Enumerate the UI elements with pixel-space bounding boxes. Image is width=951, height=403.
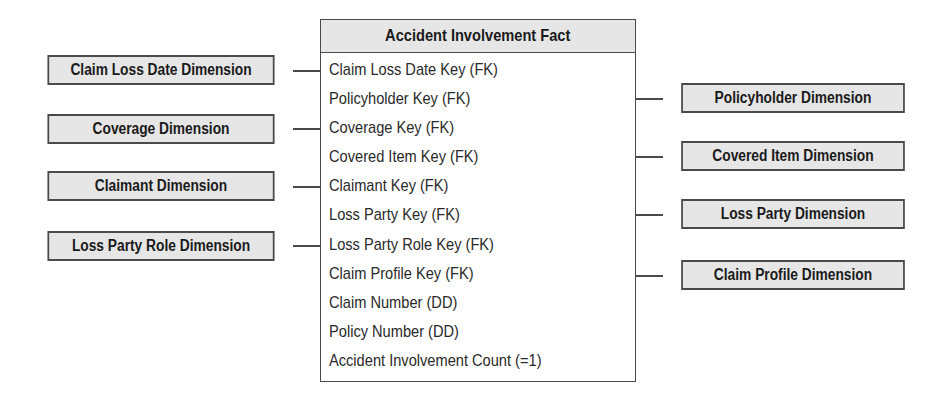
coverage-dimension: Coverage Dimension	[47, 114, 274, 144]
dimension-label: Loss Party Dimension	[721, 205, 866, 223]
loss-party-dimension: Loss Party Dimension	[681, 199, 905, 229]
loss-party-role-dimension: Loss Party Role Dimension	[47, 231, 274, 261]
policyholder-dimension: Policyholder Dimension	[681, 83, 905, 113]
fact-column: Claim Profile Key (FK)	[321, 259, 635, 288]
connector-line	[636, 156, 663, 158]
dimension-label: Claim Loss Date Dimension	[70, 61, 251, 79]
fact-column: Policy Number (DD)	[321, 317, 635, 346]
accident-involvement-fact-table: Accident Involvement Fact Claim Loss Dat…	[320, 19, 636, 382]
fact-column: Claimant Key (FK)	[321, 171, 635, 200]
column-label: Accident Involvement Count (=1)	[329, 346, 542, 375]
connector-line	[293, 186, 320, 188]
fact-table-title: Accident Involvement Fact	[385, 26, 570, 46]
covered-item-dimension: Covered Item Dimension	[681, 141, 905, 171]
fact-column: Accident Involvement Count (=1)	[321, 346, 635, 375]
column-label: Policy Number (DD)	[329, 317, 459, 346]
connector-line	[636, 98, 663, 100]
fact-column: Policyholder Key (FK)	[321, 84, 635, 113]
column-label: Coverage Key (FK)	[329, 113, 454, 142]
column-label: Policyholder Key (FK)	[329, 84, 470, 113]
fact-table-columns: Claim Loss Date Key (FK) Policyholder Ke…	[321, 53, 635, 375]
fact-column: Claim Loss Date Key (FK)	[321, 55, 635, 84]
column-label: Claim Number (DD)	[329, 288, 457, 317]
fact-column: Loss Party Key (FK)	[321, 200, 635, 229]
fact-column: Loss Party Role Key (FK)	[321, 230, 635, 259]
column-label: Covered Item Key (FK)	[329, 142, 478, 171]
dimension-label: Policyholder Dimension	[715, 89, 872, 107]
column-label: Loss Party Key (FK)	[329, 200, 460, 229]
claim-loss-date-dimension: Claim Loss Date Dimension	[47, 55, 274, 85]
connector-line	[293, 70, 320, 72]
connector-line	[293, 245, 320, 247]
connector-line	[636, 275, 663, 277]
fact-column: Claim Number (DD)	[321, 288, 635, 317]
dimension-label: Claimant Dimension	[95, 177, 227, 195]
fact-column: Covered Item Key (FK)	[321, 142, 635, 171]
column-label: Claimant Key (FK)	[329, 171, 448, 200]
claim-profile-dimension: Claim Profile Dimension	[681, 260, 905, 290]
claimant-dimension: Claimant Dimension	[47, 171, 274, 201]
fact-table-header: Accident Involvement Fact	[321, 20, 635, 53]
connector-line	[293, 128, 320, 130]
dimension-label: Covered Item Dimension	[712, 147, 873, 165]
column-label: Loss Party Role Key (FK)	[329, 230, 494, 259]
connector-line	[636, 214, 663, 216]
dimension-label: Claim Profile Dimension	[714, 266, 872, 284]
column-label: Claim Profile Key (FK)	[329, 259, 474, 288]
dimension-label: Coverage Dimension	[93, 120, 230, 138]
dimension-label: Loss Party Role Dimension	[72, 237, 250, 255]
fact-column: Coverage Key (FK)	[321, 113, 635, 142]
column-label: Claim Loss Date Key (FK)	[329, 55, 498, 84]
